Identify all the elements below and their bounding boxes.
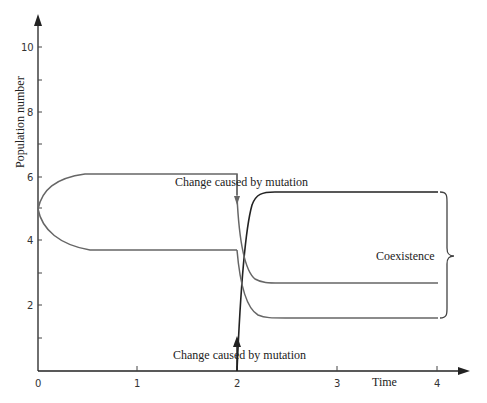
population-a-after-curve bbox=[237, 196, 438, 283]
y-axis-label: Population number bbox=[13, 76, 27, 168]
mutation-annotation-top: Change caused by mutation bbox=[175, 175, 308, 189]
x-tick-label: 1 bbox=[134, 378, 140, 389]
mutant-population-curve bbox=[237, 192, 438, 371]
y-axis-arrow-icon bbox=[34, 14, 42, 26]
y-tick-label: 8 bbox=[27, 107, 33, 118]
population-b-curve bbox=[38, 209, 237, 250]
x-tick-label: 3 bbox=[334, 378, 340, 389]
y-tick-label: 10 bbox=[21, 42, 34, 53]
coexistence-label: Coexistence bbox=[376, 249, 435, 263]
y-tick-label: 6 bbox=[27, 172, 33, 183]
coexistence-brace bbox=[440, 192, 454, 318]
x-tick-label: 2 bbox=[234, 378, 240, 389]
y-tick-label: 2 bbox=[27, 300, 33, 311]
x-axis-arrow-icon bbox=[458, 367, 470, 375]
x-tick-label: 4 bbox=[434, 378, 440, 389]
y-tick-label: 4 bbox=[27, 235, 33, 246]
population-chart: 2 4 6 8 10 0 1 2 3 4 Population number T… bbox=[0, 0, 487, 403]
mutation-annotation-bottom: Change caused by mutation bbox=[173, 348, 306, 362]
x-tick-label: 0 bbox=[35, 378, 41, 389]
x-axis-label: Time bbox=[372, 375, 397, 389]
x-ticks bbox=[137, 366, 437, 371]
arrow-up-icon bbox=[233, 336, 241, 347]
